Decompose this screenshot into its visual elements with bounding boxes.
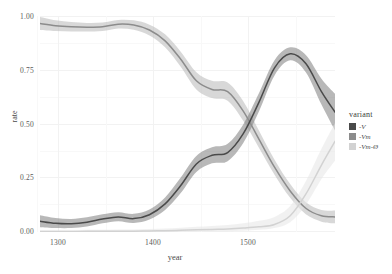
chart-figure: 1.00 0.75 0.50 0.25 0.00 1300 1400 1500 … bbox=[0, 0, 392, 274]
legend-item-v[interactable]: -V bbox=[349, 122, 392, 131]
x-tick-label: 1500 bbox=[228, 238, 268, 247]
legend: variant -V -Vm -Vm-Ø bbox=[349, 110, 392, 152]
legend-title: variant bbox=[349, 110, 392, 119]
legend-item-vm[interactable]: -Vm bbox=[349, 132, 392, 141]
x-axis-label: year bbox=[145, 252, 205, 262]
x-tick-label: 1400 bbox=[133, 238, 173, 247]
y-tick-label: 1.00 bbox=[8, 12, 34, 21]
y-tick-label: 0.00 bbox=[8, 227, 34, 236]
y-tick-label: 0.25 bbox=[8, 173, 34, 182]
legend-item-vm-zero[interactable]: -Vm-Ø bbox=[349, 142, 392, 151]
legend-item-label: -Vm bbox=[359, 133, 371, 141]
legend-swatch-icon bbox=[349, 143, 356, 150]
chart-series-canvas bbox=[40, 16, 335, 232]
legend-item-label: -Vm-Ø bbox=[359, 143, 378, 151]
legend-swatch-icon bbox=[349, 123, 356, 130]
y-axis-label: rate bbox=[10, 97, 19, 137]
x-tick-label: 1300 bbox=[38, 238, 78, 247]
legend-swatch-icon bbox=[349, 133, 356, 140]
gridline-x-minor-1250 bbox=[37, 16, 38, 232]
legend-item-label: -V bbox=[359, 123, 366, 131]
plot-panel bbox=[40, 16, 335, 232]
y-tick-label: 0.75 bbox=[8, 66, 34, 75]
